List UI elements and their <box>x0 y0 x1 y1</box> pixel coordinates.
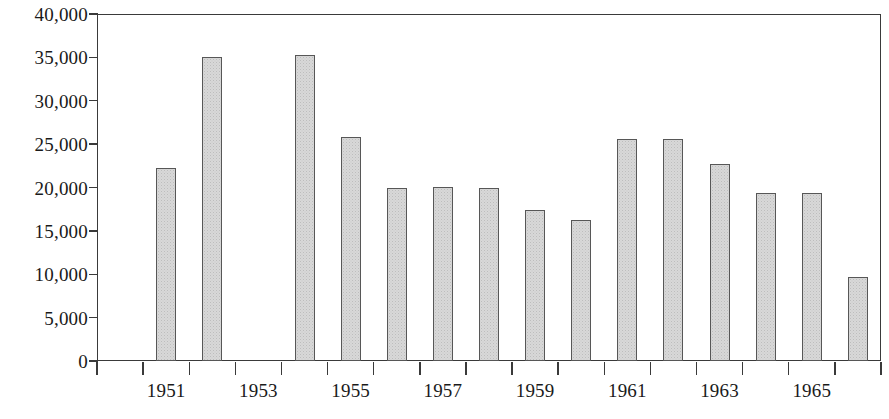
x-axis-tick-mark <box>880 362 881 375</box>
x-axis-tick-mark <box>142 362 143 375</box>
y-axis-tick-label: 10,000 <box>0 265 88 284</box>
x-axis-tick-label: 1957 <box>423 381 462 400</box>
y-axis-tick-label: 15,000 <box>0 221 88 240</box>
x-axis-tick-mark <box>465 362 466 375</box>
y-axis-tick-mark <box>89 57 98 58</box>
x-axis-tick-mark <box>604 362 605 375</box>
bar <box>387 188 407 362</box>
x-axis-tick-label: 1955 <box>331 381 370 400</box>
x-axis-tick-mark <box>419 362 420 375</box>
y-axis-tick-label: 20,000 <box>0 178 88 197</box>
bar <box>571 220 591 361</box>
bar <box>479 188 499 361</box>
y-axis-tick-mark <box>89 317 98 318</box>
bar <box>756 193 776 361</box>
bar <box>156 168 176 361</box>
x-axis-tick-mark <box>511 362 512 375</box>
x-axis-tick-mark <box>742 362 743 375</box>
x-axis-tick-mark <box>281 362 282 375</box>
x-axis-tick-mark <box>327 362 328 375</box>
x-axis-tick-mark <box>96 362 97 375</box>
x-axis-tick-mark <box>788 362 789 375</box>
y-axis-tick-mark <box>89 187 98 188</box>
bar <box>710 164 730 361</box>
bar <box>341 137 361 361</box>
y-axis-tick-label: 35,000 <box>0 48 88 67</box>
bar <box>848 277 868 361</box>
x-axis-tick-mark <box>834 362 835 375</box>
bar <box>525 210 545 361</box>
y-axis: 05,00010,00015,00020,00025,00030,00035,0… <box>0 0 88 419</box>
x-axis-tick-mark <box>235 362 236 375</box>
y-axis-tick-mark <box>89 143 98 144</box>
y-axis-tick-mark <box>89 100 98 101</box>
y-axis-tick-mark <box>89 230 98 231</box>
bar <box>802 193 822 361</box>
bar <box>433 187 453 361</box>
y-axis-tick-label: 5,000 <box>0 308 88 327</box>
y-axis-tick-label: 25,000 <box>0 135 88 154</box>
x-axis-tick-mark <box>650 362 651 375</box>
x-axis-tick-mark <box>696 362 697 375</box>
bar <box>295 55 315 361</box>
x-axis-tick-label: 1961 <box>608 381 647 400</box>
x-axis-tick-label: 1965 <box>792 381 831 400</box>
y-axis-tick-label: 0 <box>0 352 88 371</box>
x-axis-tick-mark <box>189 362 190 375</box>
y-axis-tick-mark <box>89 274 98 275</box>
bar <box>663 139 683 361</box>
x-axis-tick-label: 1963 <box>700 381 739 400</box>
x-axis-tick-label: 1953 <box>239 381 278 400</box>
x-axis-tick-mark <box>557 362 558 375</box>
x-axis-tick-label: 1959 <box>516 381 555 400</box>
bar <box>617 139 637 361</box>
bar <box>202 57 222 361</box>
x-axis-tick-mark <box>373 362 374 375</box>
x-axis-tick-label: 1951 <box>147 381 186 400</box>
y-axis-tick-mark <box>89 13 98 14</box>
y-axis-tick-label: 30,000 <box>0 91 88 110</box>
y-axis-tick-label: 40,000 <box>0 5 88 24</box>
bar-chart: 05,00010,00015,00020,00025,00030,00035,0… <box>0 0 889 419</box>
